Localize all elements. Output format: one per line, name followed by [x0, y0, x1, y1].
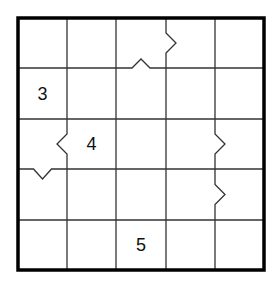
grid-cell[interactable]	[116, 68, 166, 119]
puzzle-board: 345	[0, 0, 276, 285]
grid-cell[interactable]	[166, 68, 215, 119]
grid-cell[interactable]	[18, 220, 67, 270]
grid-cell[interactable]	[166, 169, 215, 220]
grid-cell[interactable]	[166, 220, 215, 270]
grid-cell[interactable]	[67, 18, 116, 68]
grid-cell[interactable]	[18, 119, 67, 169]
grid-cell[interactable]	[67, 68, 116, 119]
grid-cell[interactable]	[116, 18, 166, 68]
grid-cell[interactable]	[67, 169, 116, 220]
grid-cell[interactable]	[215, 68, 264, 119]
clue-number: 4	[86, 134, 96, 154]
grid-cells	[18, 18, 264, 270]
grid-cell[interactable]	[215, 169, 264, 220]
grid-cell[interactable]	[215, 119, 264, 169]
clue-number: 5	[136, 235, 146, 255]
grid-cell[interactable]	[166, 119, 215, 169]
grid-cell[interactable]	[18, 18, 67, 68]
grid-cell[interactable]	[215, 18, 264, 68]
grid-cell[interactable]	[166, 18, 215, 68]
grid-cell[interactable]	[116, 119, 166, 169]
grid-cell[interactable]	[18, 169, 67, 220]
grid-cell[interactable]	[215, 220, 264, 270]
grid-cell[interactable]	[116, 169, 166, 220]
clue-number: 3	[37, 84, 47, 104]
grid-cell[interactable]	[67, 220, 116, 270]
